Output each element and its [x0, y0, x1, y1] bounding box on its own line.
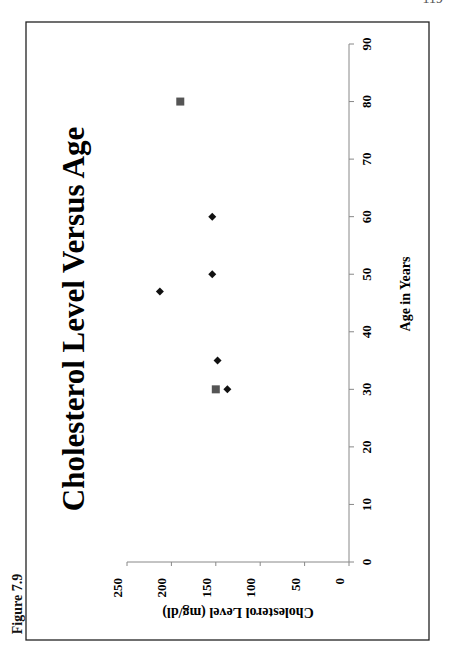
age-tick-label: 0	[359, 559, 374, 566]
diamond-marker	[208, 270, 216, 278]
age-tick-label: 80	[359, 95, 374, 108]
diamond-marker	[223, 385, 231, 393]
age-tick-label: 60	[359, 210, 374, 223]
diamond-marker	[214, 357, 222, 365]
y-axis-label: Cholesterol Level (mg/dl)	[162, 604, 314, 620]
age-tick-label: 70	[359, 153, 374, 166]
x-axis-label: Age in Years	[398, 256, 413, 331]
cholesterol-tick-label: 200	[154, 578, 169, 598]
age-tick-label: 40	[359, 325, 374, 338]
cholesterol-tick-label: 50	[288, 578, 303, 591]
age-tick-label: 30	[359, 383, 374, 396]
data-points	[156, 98, 231, 394]
cholesterol-tick-label: 150	[199, 578, 214, 598]
cholesterol-tick-label: 100	[243, 578, 258, 598]
age-tick-label: 90	[359, 38, 374, 51]
age-tick-label: 50	[359, 268, 374, 281]
chart-title: Cholesterol Level Versus Age	[56, 127, 91, 511]
diamond-marker	[208, 213, 216, 221]
square-marker	[176, 98, 184, 106]
cholesterol-tick-label: 250	[110, 578, 125, 598]
cholesterol-tick-label: 0	[332, 578, 347, 585]
scatter-chart: 0102030405060708090050100150200250 Chole…	[0, 0, 451, 656]
age-tick-label: 10	[359, 498, 374, 511]
chart-axes: 0102030405060708090050100150200250	[110, 38, 374, 598]
square-marker	[212, 385, 220, 393]
age-tick-label: 20	[359, 440, 374, 453]
diamond-marker	[156, 287, 164, 295]
